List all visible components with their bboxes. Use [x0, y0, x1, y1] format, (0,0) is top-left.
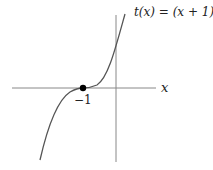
x-axis-label: x: [161, 80, 168, 95]
cubic-function-diagram: t(x) = (x + 1)³ x −1: [0, 0, 213, 170]
inflection-point: [80, 85, 86, 91]
function-label: t(x) = (x + 1)³: [134, 5, 213, 19]
point-label: −1: [74, 93, 92, 107]
graph-canvas: [0, 0, 213, 170]
